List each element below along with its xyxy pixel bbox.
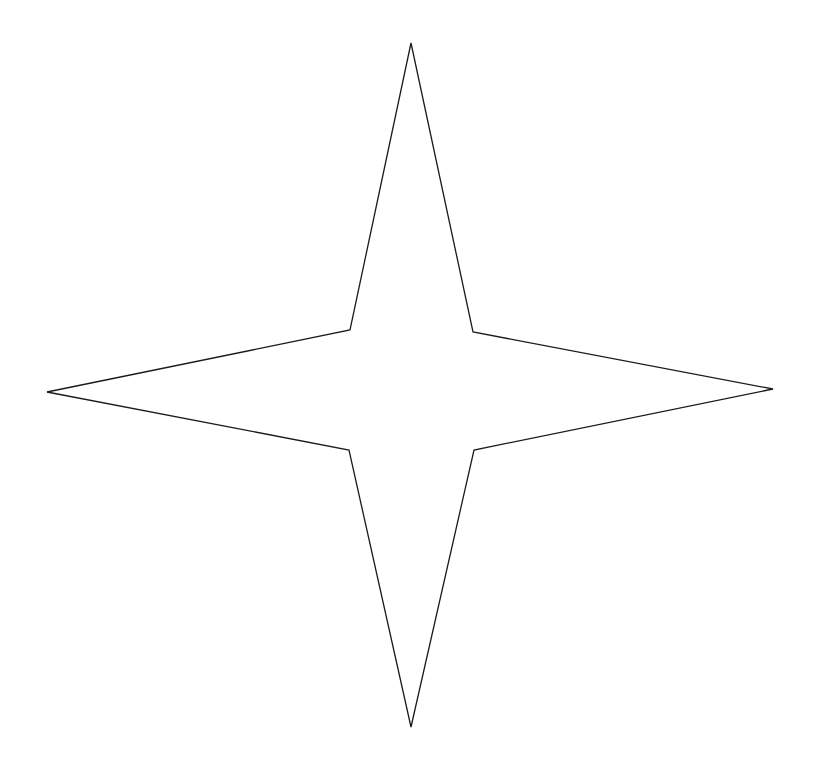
four-pointed-star-outline: [47, 43, 773, 727]
star-diagram: [0, 0, 821, 764]
drawing-canvas: [0, 0, 821, 764]
